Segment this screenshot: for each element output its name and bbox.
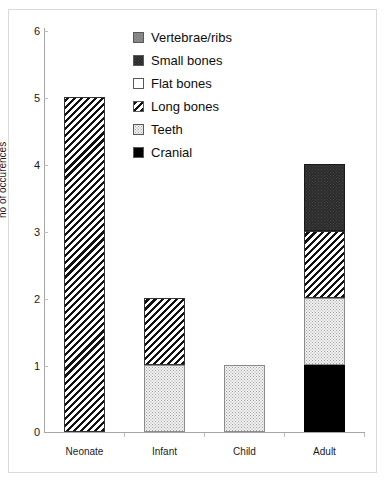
- bar-segment-long-bones[interactable]: [304, 231, 345, 298]
- y-axis-title: no of occurences: [0, 142, 8, 218]
- y-tick-label-0: 0: [14, 427, 40, 438]
- x-tick-mark-1: [124, 433, 125, 437]
- y-tick-label-3: 3: [14, 227, 40, 238]
- y-tick-label-4: 4: [14, 160, 40, 171]
- legend-label-vertebrae-ribs: Vertebrae/ribs: [151, 31, 232, 45]
- legend-item-flat-bones[interactable]: Flat bones: [133, 72, 273, 95]
- y-tick-mark-3: [44, 232, 48, 233]
- legend-label-small-bones: Small bones: [151, 54, 223, 68]
- legend-swatch-flat-bones-icon: [133, 78, 144, 89]
- y-tick-mark-1: [44, 366, 48, 367]
- legend-item-long-bones[interactable]: Long bones: [133, 95, 273, 118]
- x-category-label-neonate: Neonate: [54, 446, 115, 458]
- legend-swatch-long-bones-icon: [133, 101, 144, 112]
- y-tick-label-2: 2: [14, 294, 40, 305]
- chart-legend: Vertebrae/ribs Small bones Flat bones Lo…: [133, 26, 273, 164]
- bar-segment-teeth[interactable]: [224, 365, 265, 432]
- legend-item-small-bones[interactable]: Small bones: [133, 49, 273, 72]
- y-tick-mark-4: [44, 165, 48, 166]
- x-tick-mark-4: [364, 433, 365, 437]
- legend-swatch-vertebrae-ribs-icon: [133, 32, 144, 43]
- y-tick-label-5: 5: [14, 93, 40, 104]
- legend-swatch-teeth-icon: [133, 124, 144, 135]
- bar-infant[interactable]: [144, 298, 185, 432]
- legend-label-teeth: Teeth: [151, 123, 183, 137]
- bar-child[interactable]: [224, 365, 265, 432]
- bar-segment-long-bones[interactable]: [144, 298, 185, 365]
- legend-label-long-bones: Long bones: [151, 100, 219, 114]
- bar-segment-cranial[interactable]: [304, 365, 345, 432]
- legend-label-cranial: Cranial: [151, 146, 192, 160]
- bar-segment-teeth[interactable]: [304, 298, 345, 365]
- x-tick-mark-3: [284, 433, 285, 437]
- bar-segment-long-bones[interactable]: [64, 97, 105, 432]
- y-axis-line: [44, 28, 45, 433]
- x-category-label-adult: Adult: [294, 446, 355, 458]
- y-tick-mark-5: [44, 98, 48, 99]
- x-tick-mark-2: [204, 433, 205, 437]
- legend-item-vertebrae-ribs[interactable]: Vertebrae/ribs: [133, 26, 273, 49]
- bar-adult[interactable]: [304, 164, 345, 432]
- chart-figure: no of occurences 6 5 4 3 2 1 0 Neonate I…: [0, 0, 387, 483]
- x-category-label-child: Child: [214, 446, 275, 458]
- legend-swatch-cranial-icon: [133, 147, 144, 158]
- x-category-label-infant: Infant: [134, 446, 195, 458]
- y-tick-label-6: 6: [14, 26, 40, 37]
- y-tick-mark-6: [44, 31, 48, 32]
- legend-item-cranial[interactable]: Cranial: [133, 141, 273, 164]
- y-tick-mark-2: [44, 299, 48, 300]
- legend-item-teeth[interactable]: Teeth: [133, 118, 273, 141]
- bar-segment-teeth[interactable]: [144, 365, 185, 432]
- legend-swatch-small-bones-icon: [133, 55, 144, 66]
- bar-segment-small-bones[interactable]: [304, 164, 345, 231]
- y-tick-label-1: 1: [14, 361, 40, 372]
- legend-label-flat-bones: Flat bones: [151, 77, 212, 91]
- bar-neonate[interactable]: [64, 97, 105, 432]
